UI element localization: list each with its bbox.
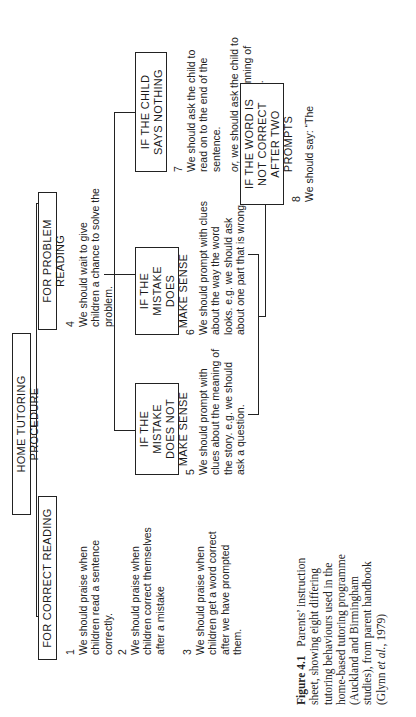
item-text: We should praise when children read a se… [77, 540, 114, 655]
title-box: HOME TUTORING PROCEDURE [12, 333, 31, 515]
connector-item4-down [104, 274, 115, 275]
case-label-line: DOES [164, 252, 177, 330]
connector-5-down [248, 414, 258, 415]
rotated-document-page: HOME TUTORING PROCEDURE FOR CORRECT READ… [0, 0, 416, 717]
item-number: 8 [290, 62, 303, 202]
case-label-line: NOT CORRECT [256, 88, 269, 200]
problem-reading-label: FOR PROBLEM READING [41, 219, 66, 302]
problem-reading-box: FOR PROBLEM READING [38, 192, 57, 330]
item-3: 3 We should praise when children get a w… [181, 520, 244, 655]
figure-label: Figure 4.1 [295, 655, 307, 705]
item-text: We should praise when children correct t… [129, 527, 166, 655]
connector-box8-vertical [258, 316, 266, 317]
correct-reading-label: FOR CORRECT READING [41, 508, 53, 647]
connector-box8-horizontal [265, 205, 266, 317]
item-8: 8 We should say: “The [290, 62, 315, 202]
connector-case-7 [114, 112, 135, 113]
connector-case-5 [114, 430, 135, 431]
item-text: We should say: “The [303, 106, 315, 202]
case-mistake-not-sense-box: IF THE MISTAKE DOES NOT MAKE SENSE [135, 383, 179, 475]
figure-caption: Figure 4.1 Parents’ instruction sheet, s… [295, 537, 388, 705]
item-2: 2 We should praise when children correct… [116, 525, 166, 655]
item-number: 1 [64, 525, 77, 655]
case-label-line: IF THE MISTAKE [138, 252, 164, 330]
item-number: 3 [181, 520, 194, 655]
case-label-line: SAYS NOTHING [152, 57, 165, 167]
case-child-says-nothing-box: IF THE CHILD SAYS NOTHING [135, 52, 167, 172]
correct-reading-box: FOR CORRECT READING [38, 496, 57, 660]
item-number: 2 [116, 525, 129, 655]
item-5: 5 We should prompt with clues about the … [184, 345, 247, 475]
item-alt-prefix: or, [228, 160, 240, 172]
item-number: 4 [64, 187, 77, 327]
case-label-line: DOES NOT [164, 388, 177, 470]
caption-et-al: et al. [375, 647, 387, 670]
item-text: We should ask the child to read on to th… [185, 50, 222, 172]
connector-case-6 [114, 274, 135, 275]
connector-cases-horizontal [114, 113, 115, 431]
case-mistake-does-sense-box: IF THE MISTAKE DOES MAKE SENSE [135, 247, 179, 335]
case-not-correct-after-prompts-box: IF THE WORD IS NOT CORRECT AFTER TWO PRO… [240, 83, 284, 205]
caption-text-end: , 1979) [375, 614, 387, 647]
item-6: 6 We should prompt with clues about the … [184, 200, 247, 335]
item-number: 6 [184, 200, 197, 335]
caption-text: Parents’ instruction sheet, showing eigh… [295, 554, 387, 705]
connector-6-down [248, 254, 258, 255]
case-label-line: IF THE CHILD [139, 57, 152, 167]
item-text: We should wait to give children a chance… [77, 188, 114, 327]
connector-56-horizontal [258, 254, 259, 415]
item-1: 1 We should praise when children read a … [64, 525, 114, 655]
item-number: 5 [184, 345, 197, 475]
case-label-line: IF THE MISTAKE [138, 388, 164, 470]
item-text: We should praise when children get a wor… [194, 531, 244, 655]
item-4: 4 We should wait to give children a chan… [64, 187, 114, 327]
item-number: 7 [172, 32, 185, 172]
case-label-line: IF THE WORD IS [243, 88, 256, 200]
